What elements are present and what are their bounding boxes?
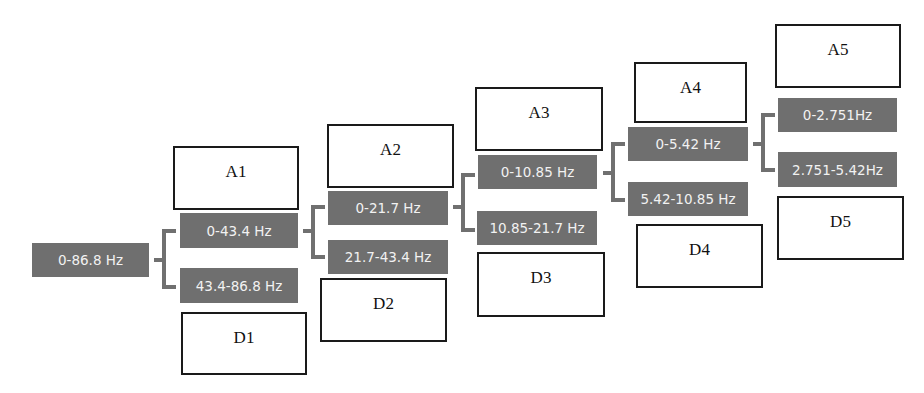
approx-box-a1: A1 (173, 146, 299, 210)
bracket-1 (162, 229, 176, 289)
high-band-2: 21.7-43.4 Hz (328, 240, 448, 274)
detail-box-d4: D4 (636, 224, 763, 288)
low-band-2: 0-21.7 Hz (328, 191, 448, 225)
bracket-4 (611, 142, 625, 202)
high-band-1: 43.4-86.8 Hz (180, 268, 298, 303)
bracket-3 (461, 173, 475, 232)
high-band-4: 5.42-10.85 Hz (628, 182, 748, 216)
low-band-3: 0-10.85 Hz (478, 155, 597, 189)
root-band: 0-86.8 Hz (32, 243, 149, 277)
high-band-3: 10.85-21.7 Hz (477, 211, 597, 245)
high-band-5: 2.751-5.42Hz (778, 152, 897, 187)
low-band-5: 0-2.751Hz (778, 98, 897, 132)
low-band-4: 0-5.42 Hz (628, 127, 748, 161)
bracket-5 (761, 113, 775, 172)
approx-box-a2: A2 (327, 124, 454, 188)
detail-box-d5: D5 (777, 196, 904, 260)
low-band-1: 0-43.4 Hz (180, 213, 298, 248)
detail-box-d1: D1 (181, 312, 307, 375)
approx-box-a3: A3 (475, 87, 603, 151)
bracket-2 (311, 205, 325, 259)
approx-box-a5: A5 (775, 24, 901, 88)
approx-box-a4: A4 (634, 62, 747, 123)
detail-box-d3: D3 (477, 252, 605, 317)
detail-box-d2: D2 (320, 278, 447, 342)
